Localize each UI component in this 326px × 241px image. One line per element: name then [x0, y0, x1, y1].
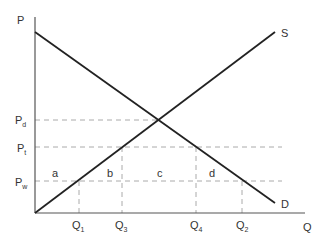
q3-label: Q3 [115, 219, 128, 233]
demand-label: D [281, 198, 289, 210]
pd-label: Pd [15, 114, 26, 128]
q2-label: Q2 [236, 219, 249, 233]
pt-label: Pt [17, 142, 26, 156]
area-b-label: b [107, 167, 113, 179]
area-c-label: c [157, 167, 163, 179]
demand-line [35, 32, 275, 203]
q4-label: Q4 [190, 219, 203, 233]
p-axis-label: P [17, 14, 24, 26]
supply-line [35, 32, 275, 213]
q-axis-label: Q [303, 221, 312, 233]
pw-label: Pw [15, 176, 28, 190]
area-d-label: d [209, 167, 215, 179]
supply-label: S [281, 27, 288, 39]
supply-demand-diagram: P Q S D Pd Pt Pw Q1 Q3 Q4 Q2 a b c d [0, 0, 326, 241]
q1-label: Q1 [72, 219, 85, 233]
area-a-label: a [52, 167, 59, 179]
diagram-canvas: P Q S D Pd Pt Pw Q1 Q3 Q4 Q2 a b c d [0, 0, 326, 241]
